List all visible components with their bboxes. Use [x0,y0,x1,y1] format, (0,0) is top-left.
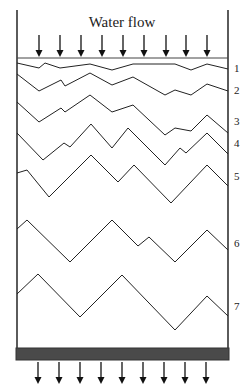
inflow-arrows [36,35,211,57]
down-arrow-icon [203,362,210,384]
down-arrow-icon [36,35,43,57]
down-arrow-icon [161,362,168,384]
down-arrow-icon [98,362,105,384]
down-arrow-icon [99,35,106,57]
layer-label-7: 7 [234,300,240,312]
down-arrow-icon [182,362,189,384]
layer-label-5: 5 [234,170,240,182]
down-arrow-icon [183,35,190,57]
bottom-drain-plate [16,348,229,360]
down-arrow-icon [78,35,85,57]
wetting-front-lines [17,63,228,330]
down-arrow-icon [119,362,126,384]
wetting-front-line-1 [17,63,228,70]
down-arrow-icon [140,362,147,384]
wetting-front-line-7 [17,274,228,330]
diagram-title: Water flow [89,14,156,30]
down-arrow-icon [120,35,127,57]
wetting-front-line-5 [17,155,228,203]
down-arrow-icon [163,35,170,57]
down-arrow-icon [56,362,63,384]
down-arrow-icon [204,35,211,57]
wetting-front-line-6 [17,220,228,262]
down-arrow-icon [35,362,42,384]
down-arrow-icon [77,362,84,384]
layer-label-1: 1 [234,62,240,74]
layer-label-6: 6 [234,237,240,249]
down-arrow-icon [141,35,148,57]
water-flow-diagram: Water flow 1 2 3 4 5 6 7 [0,0,247,387]
wetting-front-line-4 [17,124,228,165]
outflow-arrows [35,362,210,384]
layer-label-3: 3 [234,115,240,127]
wetting-front-line-2 [17,73,228,95]
layer-label-2: 2 [234,84,240,96]
down-arrow-icon [57,35,64,57]
layer-label-4: 4 [234,137,240,149]
wetting-front-line-3 [17,95,228,135]
